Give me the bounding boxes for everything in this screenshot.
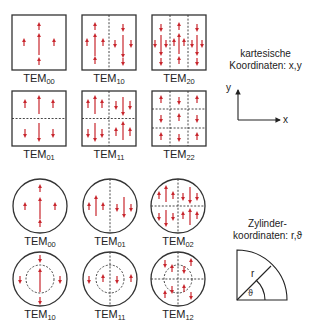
caption-line-1: Zylinder- — [222, 218, 313, 230]
label-base: TEM — [162, 308, 185, 320]
radius-label: r — [251, 268, 254, 280]
axis-y-label: y — [226, 82, 231, 94]
label-sub: 12 — [185, 313, 193, 322]
label-base: TEM — [93, 148, 116, 160]
label-sub: 20 — [186, 77, 194, 86]
mode-label-cyl-tem00: TEM00 — [10, 235, 70, 251]
mode-label-cyl-tem02: TEM02 — [148, 235, 208, 251]
label-sub: 02 — [185, 240, 193, 249]
label-sub: 22 — [186, 153, 194, 162]
label-base: TEM — [93, 72, 116, 84]
cartesian-caption: kartesische Koordinaten: x,y — [218, 48, 313, 72]
label-base: TEM — [24, 235, 47, 247]
caption-line-1: kartesische — [218, 48, 313, 60]
label-base: TEM — [23, 72, 46, 84]
caption-line-2: koordinaten: r,ϑ — [222, 230, 313, 242]
mode-label-cart-tem20: TEM20 — [149, 72, 209, 88]
mode-label-cart-tem10: TEM10 — [79, 72, 139, 88]
label-sub: 11 — [118, 313, 126, 322]
tem-mode-diagram: TEM00 TEM10 TEM20 TEM01 TEM11 TEM22 kart… — [0, 0, 313, 326]
label-sub: 11 — [117, 153, 125, 162]
label-base: TEM — [162, 235, 185, 247]
mode-label-cart-tem01: TEM01 — [9, 148, 69, 164]
label-base: TEM — [24, 308, 47, 320]
mode-label-cyl-tem01: TEM01 — [80, 235, 140, 251]
axis-x-label: x — [283, 114, 288, 126]
label-sub: 10 — [116, 77, 124, 86]
label-base: TEM — [163, 72, 186, 84]
label-base: TEM — [23, 148, 46, 160]
mode-label-cyl-tem12: TEM12 — [148, 308, 208, 324]
label-base: TEM — [163, 148, 186, 160]
label-base: TEM — [94, 235, 117, 247]
mode-label-cart-tem00: TEM00 — [9, 72, 69, 88]
label-sub: 01 — [117, 240, 125, 249]
mode-label-cyl-tem11: TEM11 — [80, 308, 140, 324]
label-sub: 10 — [47, 313, 55, 322]
mode-label-cyl-tem10: TEM10 — [10, 308, 70, 324]
mode-label-cart-tem22: TEM22 — [149, 148, 209, 164]
caption-line-2: Koordinaten: x,y — [218, 60, 313, 72]
label-sub: 00 — [47, 240, 55, 249]
mode-label-cart-tem11: TEM11 — [79, 148, 139, 164]
label-sub: 01 — [46, 153, 54, 162]
label-sub: 00 — [46, 77, 54, 86]
cylindrical-caption: Zylinder- koordinaten: r,ϑ — [222, 218, 313, 242]
angle-label: ϑ — [248, 287, 253, 299]
label-base: TEM — [94, 308, 117, 320]
